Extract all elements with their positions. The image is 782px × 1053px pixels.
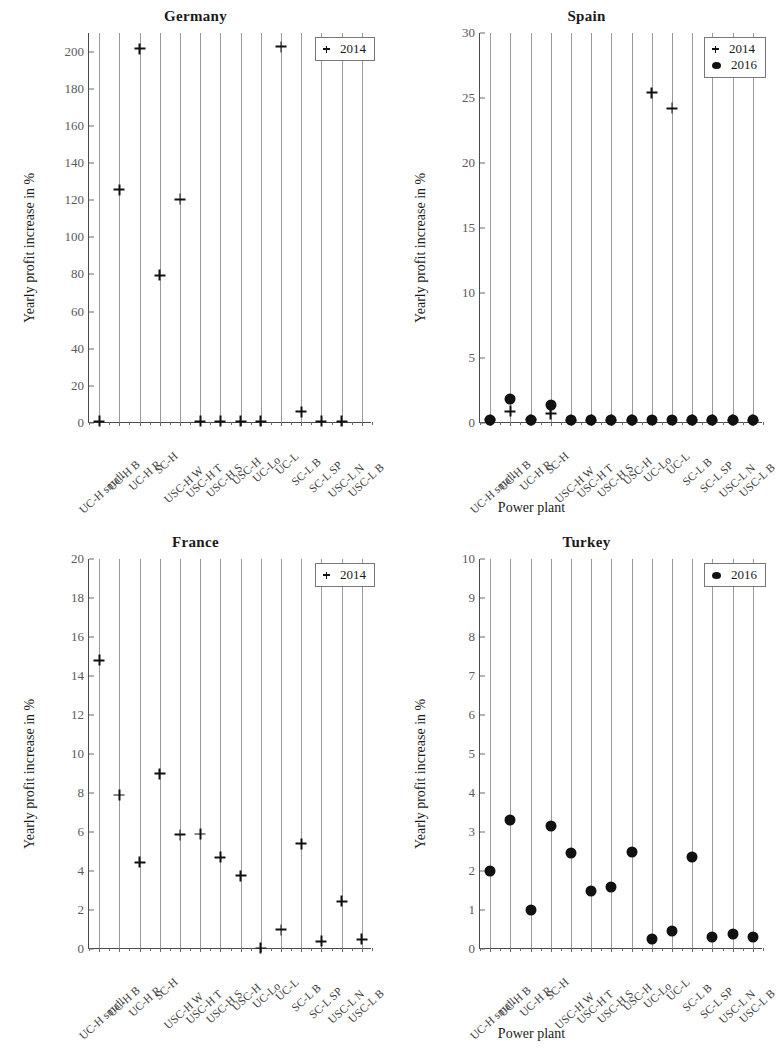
vertical-gridline — [301, 33, 302, 422]
plot-area-france: 02468101214161820 — [88, 559, 371, 949]
y-tick-label: 7 — [469, 668, 476, 684]
data-point-2014 — [134, 43, 145, 54]
y-tick-mark — [480, 793, 485, 794]
x-tick-minor — [622, 422, 623, 425]
y-tick-label: 25 — [462, 90, 475, 106]
x-tick-mark — [753, 948, 754, 952]
x-tick-minor — [150, 948, 151, 951]
legend-label: 2016 — [731, 567, 757, 583]
x-tick-mark — [733, 948, 734, 952]
data-point-2014 — [667, 103, 678, 114]
vertical-gridline — [99, 559, 100, 948]
y-tick-mark — [89, 949, 94, 950]
y-tick-label: 20 — [71, 378, 84, 394]
plot-area-turkey: 012345678910 — [479, 559, 762, 949]
vertical-gridline — [281, 559, 282, 948]
vertical-gridline — [160, 559, 161, 948]
y-tick-label: 9 — [469, 590, 476, 606]
data-point-2014 — [296, 406, 307, 417]
vertical-gridline — [140, 33, 141, 422]
y-tick-label: 0 — [78, 415, 85, 431]
vertical-gridline — [692, 33, 693, 422]
plot-area-spain: 051015202530 — [479, 33, 762, 423]
legend-germany: 2014 — [315, 37, 375, 61]
data-point-2014 — [276, 924, 287, 935]
y-tick-mark — [480, 293, 485, 294]
data-point-2014 — [646, 87, 657, 98]
x-tick-minor — [682, 948, 683, 951]
x-axis-label-spain: Power plant — [336, 500, 727, 516]
x-tick-minor — [662, 948, 663, 951]
vertical-gridline — [119, 33, 120, 422]
data-point-2016 — [747, 931, 758, 942]
data-point-2014 — [235, 870, 246, 881]
y-tick-mark — [89, 754, 94, 755]
x-tick-minor — [190, 422, 191, 425]
data-point-2016 — [545, 400, 556, 411]
vertical-gridline — [241, 559, 242, 948]
vertical-gridline — [362, 33, 363, 422]
x-tick-mark — [241, 948, 242, 952]
y-axis-label-france: Yearly profit increase in % — [22, 699, 38, 849]
x-tick-mark — [571, 948, 572, 952]
x-tick-minor — [210, 422, 211, 425]
y-tick-label: 3 — [469, 824, 476, 840]
y-tick-mark — [89, 559, 94, 560]
vertical-gridline — [99, 33, 100, 422]
x-tick-minor — [251, 948, 252, 951]
data-point-2016 — [667, 415, 678, 426]
data-point-2016 — [565, 415, 576, 426]
x-tick-mark — [301, 422, 302, 426]
x-tick-minor — [311, 948, 312, 951]
cross-marker-icon — [322, 45, 331, 54]
figure-panel-grid: Germany020406080100120140160180200Yearly… — [0, 0, 782, 1053]
x-tick-mark — [632, 948, 633, 952]
data-point-2014 — [134, 857, 145, 868]
plot-area-germany: 020406080100120140160180200 — [88, 33, 371, 423]
x-category-label: SC-H — [543, 976, 571, 1002]
x-tick-minor — [601, 948, 602, 951]
x-tick-minor — [271, 948, 272, 951]
y-tick-label: 1 — [469, 902, 476, 918]
vertical-gridline — [301, 559, 302, 948]
data-point-2016 — [687, 852, 698, 863]
x-tick-mark — [140, 948, 141, 952]
y-axis-label-germany: Yearly profit increase in % — [22, 173, 38, 323]
data-point-2016 — [727, 415, 738, 426]
data-point-2016 — [707, 415, 718, 426]
x-tick-minor — [581, 422, 582, 425]
legend-label: 2014 — [340, 41, 366, 57]
y-tick-label: 80 — [71, 266, 84, 282]
panel-turkey: Turkey012345678910Yearly profit increase… — [391, 527, 782, 1053]
vertical-gridline — [510, 33, 511, 422]
x-tick-minor — [541, 948, 542, 951]
y-tick-label: 0 — [469, 941, 476, 957]
x-tick-minor — [190, 948, 191, 951]
vertical-gridline — [632, 559, 633, 948]
legend-spain: 20142016 — [704, 37, 766, 78]
vertical-gridline — [632, 33, 633, 422]
x-tick-minor — [541, 422, 542, 425]
y-tick-label: 2 — [78, 902, 85, 918]
chart-title-turkey: Turkey — [391, 534, 782, 551]
x-tick-minor — [271, 422, 272, 425]
x-tick-mark — [692, 948, 693, 952]
y-tick-label: 200 — [65, 44, 85, 60]
y-tick-mark — [89, 793, 94, 794]
y-tick-label: 140 — [65, 155, 85, 171]
x-tick-minor — [520, 422, 521, 425]
data-point-2014 — [154, 768, 165, 779]
vertical-gridline — [753, 559, 754, 948]
x-tick-minor — [682, 422, 683, 425]
x-tick-minor — [109, 422, 110, 425]
x-tick-minor — [210, 948, 211, 951]
x-tick-minor — [622, 948, 623, 951]
x-tick-minor — [311, 422, 312, 425]
data-point-2016 — [606, 881, 617, 892]
y-tick-label: 0 — [78, 941, 85, 957]
data-point-2014 — [174, 829, 185, 840]
x-tick-minor — [332, 948, 333, 951]
x-tick-mark — [160, 948, 161, 952]
vertical-gridline — [180, 559, 181, 948]
y-tick-label: 100 — [65, 229, 85, 245]
